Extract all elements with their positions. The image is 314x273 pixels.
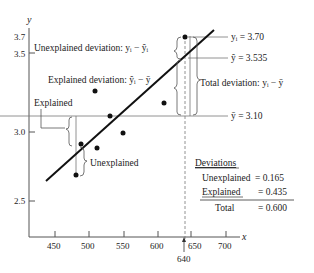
regression-deviation-chart: y x 3.7 3.5 3.0 2.5 450 500 550 600 650 … [0,0,314,273]
x-axis-label: x [241,231,247,242]
x-label-640: 640 [177,254,191,264]
y-axis-label: y [26,14,32,25]
dev-total-label: Total [215,203,235,213]
y-label-3.0: 3.0 [14,127,26,137]
explained-leader [41,109,65,128]
y-label-3.7: 3.7 [14,32,26,42]
x-label-600: 600 [150,241,164,251]
data-point [95,146,100,151]
explained-deviation-label: Explained deviation: ŷᵢ − ȳ [48,75,151,85]
unexplained-brace-left [80,147,87,176]
yi-value-label: yᵢ = 3.70 [231,32,264,42]
yhat-value-label: ŷ = 3.535 [231,53,267,63]
data-point [121,131,126,136]
unexplained-brace-top [174,37,181,59]
data-point [74,173,79,178]
dev-total-value: = 0.600 [258,203,287,213]
explained-brace-left [66,117,72,146]
x-label-650: 650 [188,241,202,251]
explained-label: Explained [34,98,73,108]
x-label-500: 500 [81,241,95,251]
x-label-450: 450 [47,241,61,251]
dev-explained-value: = 0.435 [258,187,287,197]
deviations-title: Deviations [195,158,236,168]
explained-brace-top [174,60,181,115]
x-label-550: 550 [116,241,130,251]
dev-explained-label: Explained [202,187,241,197]
y-label-2.5: 2.5 [14,196,26,206]
data-point [162,101,167,106]
data-point-highlighted [183,35,188,40]
data-point [108,114,113,119]
dev-unexplained-value: = 0.165 [255,173,284,183]
total-deviation-label: Total deviation: yᵢ − ȳ [200,78,284,88]
unexplained-label: Unexplained [90,158,139,168]
unexplained-deviation-label: Unexplained deviation: yᵢ − ŷᵢ [34,43,148,53]
x-label-700: 700 [218,241,232,251]
dev-unexplained-label: Unexplained [202,173,251,183]
y-label-3.5: 3.5 [14,49,26,59]
ybar-value-label: ȳ = 3.10 [231,111,263,121]
data-point [79,142,84,147]
data-point [93,89,98,94]
